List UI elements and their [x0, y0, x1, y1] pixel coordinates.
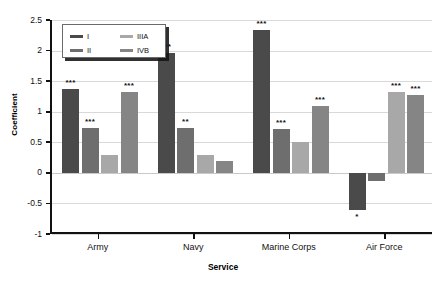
- y-tick-label: -1: [0, 229, 42, 239]
- x-axis-title: Service: [0, 262, 446, 272]
- legend-label: IIIA: [137, 32, 148, 41]
- y-tick-label: 1: [0, 106, 42, 116]
- y-tick-label: 0.5: [0, 137, 42, 147]
- bar: [197, 155, 214, 173]
- bar-chart-figure: Coefficient 2.521.510.50-0.5-1 *********…: [0, 0, 446, 285]
- significance-marker: ***: [264, 119, 298, 127]
- legend-item[interactable]: I: [70, 32, 89, 41]
- bar: [388, 92, 405, 173]
- x-tick-label: Air Force: [334, 242, 434, 252]
- gridline: [52, 203, 432, 204]
- legend-item[interactable]: IVB: [120, 46, 149, 55]
- significance-marker: *: [340, 213, 374, 221]
- bar: [101, 155, 118, 173]
- significance-marker: ***: [303, 96, 337, 104]
- bar: [216, 161, 233, 173]
- x-tick-mark: [384, 234, 386, 239]
- legend: IIIIAIIIVB: [62, 24, 166, 58]
- y-tick-label: 1.5: [0, 76, 42, 86]
- bar: [292, 142, 309, 173]
- x-tick-label: Marine Corps: [239, 242, 339, 252]
- bar: [121, 92, 138, 173]
- bar: [158, 53, 175, 173]
- legend-swatch: [70, 35, 83, 38]
- significance-marker: ***: [54, 79, 88, 87]
- legend-swatch: [120, 35, 133, 38]
- significance-marker: ***: [73, 118, 107, 126]
- y-tick-label: 0: [0, 167, 42, 177]
- legend-label: IVB: [137, 46, 149, 55]
- significance-marker: ***: [245, 20, 279, 28]
- y-tick-label: -0.5: [0, 198, 42, 208]
- bar: [177, 128, 194, 173]
- significance-marker: ***: [112, 82, 146, 90]
- legend-item[interactable]: II: [70, 46, 91, 55]
- legend-swatch: [120, 49, 133, 52]
- x-tick-label: Navy: [143, 242, 243, 252]
- bar: [62, 89, 79, 173]
- y-tick-label: 2.5: [0, 15, 42, 25]
- legend-label: I: [87, 32, 89, 41]
- y-axis-ticks: 2.521.510.50-0.5-1: [0, 0, 46, 285]
- significance-marker: ***: [399, 85, 433, 93]
- x-tick-mark: [98, 234, 100, 239]
- gridline: [52, 20, 432, 21]
- legend-item[interactable]: IIIA: [120, 32, 148, 41]
- x-tick-mark: [289, 234, 291, 239]
- gridline: [52, 112, 432, 113]
- bar: [312, 106, 329, 173]
- significance-marker: **: [169, 118, 203, 126]
- bar: [253, 30, 270, 173]
- legend-swatch: [70, 49, 83, 52]
- bar: [368, 173, 385, 182]
- legend-label: II: [87, 46, 91, 55]
- y-tick-label: 2: [0, 45, 42, 55]
- bar: [407, 95, 424, 173]
- gridline: [52, 142, 432, 143]
- bar: [349, 173, 366, 210]
- bar: [82, 128, 99, 173]
- bar: [273, 129, 290, 173]
- x-tick-mark: [193, 234, 195, 239]
- x-tick-label: Army: [48, 242, 148, 252]
- gridline: [52, 234, 432, 235]
- gridline: [52, 81, 432, 82]
